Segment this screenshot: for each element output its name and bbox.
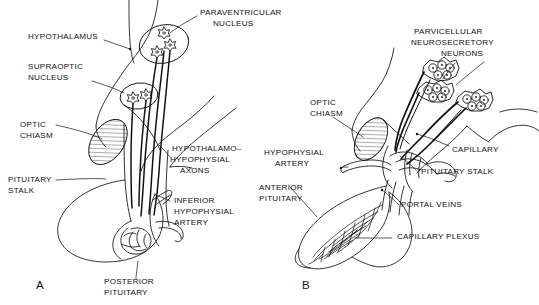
label-inferior-hypophysial-artery-line3: ARTERY — [174, 218, 208, 229]
label-anterior-pituitary-line1: ANTERIOR — [259, 183, 303, 194]
label-hh-axons-line1: HYPOTHALAMO– — [172, 144, 242, 155]
label-paraventricular-nucleus-line2: NUCLEUS — [213, 19, 253, 30]
label-pituitary-stalk-a-line1: PITUITARY — [8, 175, 52, 186]
label-capillary-plexus: CAPILLARY PLEXUS — [397, 232, 479, 243]
optic-chiasm-shape-a — [81, 112, 135, 171]
label-parvicellular-line2: NEUROSECRETORY — [411, 38, 494, 49]
label-pituitary-stalk-a-line2: STALK — [8, 186, 34, 197]
label-optic-chiasm-a-line1: OPTIC — [20, 120, 46, 131]
panel-letter-b: B — [302, 279, 310, 291]
label-posterior-pituitary-line1: POSTERIOR — [104, 277, 154, 288]
label-supraoptic-nucleus-line2: NUCLEUS — [28, 73, 68, 84]
label-posterior-pituitary-line2: PITUITARY — [104, 288, 148, 299]
label-hypophysial-artery-line1: HYPOPHYSIAL — [264, 148, 324, 159]
label-hypophysial-artery-line2: ARTERY — [275, 159, 309, 170]
label-anterior-pituitary-line2: PITUITARY — [259, 194, 303, 205]
optic-chiasm-shape-b — [347, 112, 394, 166]
label-inferior-hypophysial-artery-line2: HYPOPHYSIAL — [174, 207, 234, 218]
label-supraoptic-nucleus-line1: SUPRAOPTIC — [28, 62, 83, 73]
label-parvicellular-line1: PARVICELLULAR — [414, 27, 483, 38]
anatomical-figure: HYPOTHALAMUS SUPRAOPTIC NUCLEUS OPTIC CH… — [0, 0, 539, 305]
label-capillary: CAPILLARY — [452, 145, 499, 156]
label-hypothalamus: HYPOTHALAMUS — [28, 32, 98, 43]
label-hh-axons-line3: AXONS — [180, 166, 210, 177]
capillary-plexus-shape — [309, 202, 382, 264]
label-paraventricular-nucleus-line1: PARAVENTRICULAR — [200, 8, 282, 19]
panel-letter-a: A — [36, 279, 44, 291]
label-hh-axons-line2: HYPOPHYSIAL — [170, 155, 230, 166]
label-inferior-hypophysial-artery-line1: INFERIOR — [174, 196, 215, 207]
label-portal-veins: PORTAL VEINS — [401, 200, 462, 211]
label-parvicellular-line3: NEURONS — [441, 49, 483, 60]
label-optic-chiasm-b-line1: OPTIC — [310, 98, 336, 109]
label-pituitary-stalk-b: PITUITARY STALK — [421, 167, 493, 178]
label-optic-chiasm-b-line2: CHIASM — [310, 109, 343, 120]
hypothalamo-hypophysial-axons-shape — [131, 51, 170, 216]
posterior-pituitary-shape — [58, 180, 163, 262]
label-optic-chiasm-a-line2: CHIASM — [20, 131, 53, 142]
